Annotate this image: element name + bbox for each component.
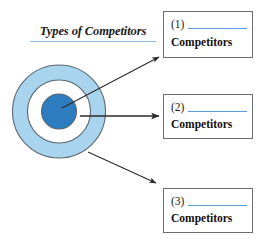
answer-box-2-number: (2) xyxy=(171,101,184,113)
outer-ring-circle xyxy=(13,65,106,158)
arrow-to-box-1 xyxy=(62,57,159,108)
answer-box-3[interactable]: (3) Competitors xyxy=(163,188,253,233)
arrow-to-box-3 xyxy=(88,152,156,183)
answer-box-2[interactable]: (2) Competitors xyxy=(163,94,253,139)
answer-box-3-blank-row: (3) xyxy=(171,195,247,207)
answer-box-1-number: (1) xyxy=(171,18,184,30)
answer-box-1-blank-row: (1) xyxy=(171,18,247,30)
title-underline-rule xyxy=(30,41,156,42)
middle-ring-circle xyxy=(28,80,91,143)
answer-box-2-blank-row: (2) xyxy=(171,101,247,113)
answer-box-3-number: (3) xyxy=(171,195,184,207)
page-title: Types of Competitors xyxy=(30,24,156,39)
answer-box-2-blank-line[interactable] xyxy=(188,111,247,112)
answer-box-3-label: Competitors xyxy=(171,212,232,225)
inner-circle xyxy=(42,94,77,129)
answer-box-2-label: Competitors xyxy=(171,118,232,131)
answer-box-1[interactable]: (1) Competitors xyxy=(163,11,253,58)
answer-box-1-label: Competitors xyxy=(171,36,232,49)
worksheet-diagram-page: Types of Competitors (1) Competitors (2)… xyxy=(0,0,267,244)
answer-box-3-blank-line[interactable] xyxy=(188,205,247,206)
answer-box-1-blank-line[interactable] xyxy=(188,28,247,29)
